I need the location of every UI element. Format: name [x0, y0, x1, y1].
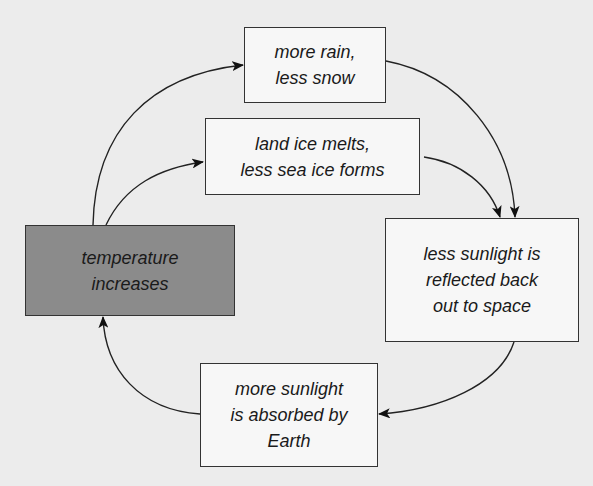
- node-land-ice-melts: land ice melts, less sea ice forms: [205, 118, 420, 195]
- arrow-reflected-to-absorbed: [379, 342, 514, 414]
- node-more-rain: more rain, less snow: [244, 27, 386, 103]
- node-more-sunlight-absorbed: more sunlight is absorbed by Earth: [200, 363, 378, 467]
- arrow-ice-to-reflected: [424, 157, 500, 217]
- node-label: land ice melts, less sea ice forms: [240, 131, 384, 183]
- node-label: more sunlight is absorbed by Earth: [230, 376, 347, 454]
- node-temperature-increases: temperature increases: [25, 225, 235, 316]
- node-less-sunlight-reflected: less sunlight is reflected back out to s…: [385, 218, 579, 342]
- arrow-absorbed-to-temperature: [103, 317, 200, 414]
- arrow-temperature-to-ice: [106, 162, 203, 225]
- node-label: temperature increases: [81, 245, 178, 297]
- node-label: more rain, less snow: [274, 39, 355, 91]
- node-label: less sunlight is reflected back out to s…: [423, 241, 540, 319]
